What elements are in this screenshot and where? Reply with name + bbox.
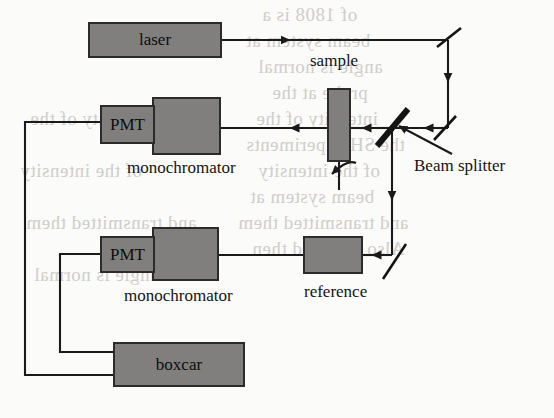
laser-block[interactable]: laser bbox=[88, 22, 222, 58]
monochromator-top-label: monochromator bbox=[127, 159, 236, 176]
sample-block[interactable] bbox=[327, 88, 351, 162]
beam-splitter-label: Beam splitter bbox=[414, 157, 505, 174]
mirror-bottom-right-icon[interactable] bbox=[383, 244, 406, 279]
monochromator-bottom-block[interactable] bbox=[152, 227, 219, 281]
monochromator-top-block[interactable] bbox=[152, 97, 221, 155]
beam-and-wire-layer bbox=[0, 0, 554, 418]
reference-label: reference bbox=[304, 283, 367, 300]
sample-emission-curved-arrow bbox=[332, 162, 356, 174]
pmt-top-block-label: PMT bbox=[102, 115, 153, 135]
reference-block[interactable] bbox=[303, 236, 363, 274]
monochromator-bottom-label: monochromator bbox=[124, 287, 233, 304]
pmt-top-block[interactable]: PMT bbox=[100, 105, 155, 144]
sample-label: sample bbox=[310, 52, 358, 69]
figure-canvas: of 1808 is a beam system at angle is nor… bbox=[0, 0, 554, 418]
boxcar-block-label: boxcar bbox=[115, 355, 243, 375]
boxcar-block[interactable]: boxcar bbox=[113, 342, 245, 387]
pmt-bottom-block-label: PMT bbox=[102, 245, 153, 265]
pmt-bottom-block[interactable]: PMT bbox=[100, 236, 155, 273]
laser-block-label: laser bbox=[90, 30, 220, 50]
